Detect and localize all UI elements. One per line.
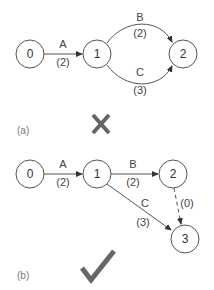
edge-label-b-C: C <box>141 197 149 209</box>
node-b-2: 2 <box>159 160 187 188</box>
svg-text:3: 3 <box>182 232 189 246</box>
node-b-0: 0 <box>16 160 44 188</box>
node-a-0: 0 <box>16 40 44 68</box>
svg-text:1: 1 <box>94 47 101 61</box>
caption-b: (b) <box>17 270 29 281</box>
edge-duration-a-B: (2) <box>133 27 146 39</box>
node-b-1: 1 <box>83 160 111 188</box>
node-a-2: 2 <box>169 40 197 68</box>
svg-text:0: 0 <box>27 167 34 181</box>
diagram-a: A (2) B (2) C (3) 0 1 2 (a) <box>16 11 197 136</box>
node-b-3: 3 <box>171 225 199 253</box>
cross-mark-icon <box>93 115 109 133</box>
edge-duration-b-C: (3) <box>136 216 149 228</box>
diagram-b: A (2) B (2) C (3) (0) 0 1 2 3 (b) <box>16 158 199 281</box>
svg-text:2: 2 <box>170 167 177 181</box>
edge-duration-b-dummy: (0) <box>180 197 193 209</box>
edge-duration-a-C: (3) <box>133 84 146 96</box>
edge-label-a-A: A <box>59 38 67 50</box>
edge-label-a-B: B <box>136 11 143 23</box>
edge-duration-a-A: (2) <box>56 56 69 68</box>
svg-text:1: 1 <box>94 167 101 181</box>
edge-label-a-C: C <box>136 66 144 78</box>
check-mark-icon <box>82 251 114 280</box>
svg-text:0: 0 <box>27 47 34 61</box>
edge-duration-b-B: (2) <box>126 176 139 188</box>
node-a-1: 1 <box>83 40 111 68</box>
activity-network-diagrams: A (2) B (2) C (3) 0 1 2 (a) A <box>0 0 214 290</box>
edge-duration-b-A: (2) <box>56 176 69 188</box>
svg-text:2: 2 <box>180 47 187 61</box>
caption-a: (a) <box>17 125 29 136</box>
edge-label-b-A: A <box>59 158 67 170</box>
edge-label-b-B: B <box>129 158 136 170</box>
